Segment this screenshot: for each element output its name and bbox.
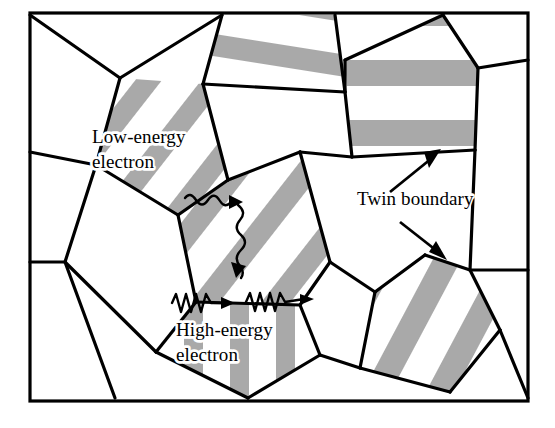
microstructure-diagram: Low-energy Low-energy electron electron … [0,0,555,428]
label-low-energy-electron-line2: electron [92,151,154,172]
label-low-energy-electron-line1: Low-energy [92,126,186,147]
microstructure-figure: Low-energy Low-energy electron electron … [0,0,555,428]
label-twin-boundary: Twin boundary [357,188,474,209]
label-high-energy-electron-line1: High-energy [176,319,273,340]
label-twin-boundary: Twin boundary Twin boundary [357,188,474,209]
label-high-energy-electron-line2: electron [176,344,238,365]
